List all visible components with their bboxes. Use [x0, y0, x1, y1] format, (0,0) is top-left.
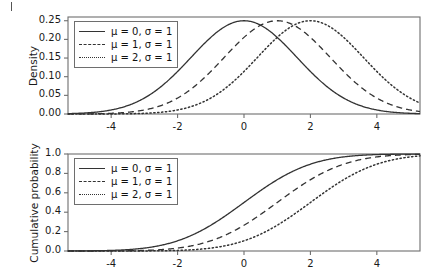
y-tick-label: 0.00	[39, 107, 61, 118]
legend-label: μ = 2, σ = 1	[111, 52, 172, 63]
legend-entry: μ = 0, σ = 1	[79, 162, 172, 175]
y-tick-label: 0.2	[45, 225, 61, 236]
legend-entry: μ = 2, σ = 1	[79, 188, 172, 201]
x-tick-label: 0	[224, 121, 264, 132]
y-tick-label: 0.4	[45, 205, 61, 216]
y-tick-label: 0.05	[39, 88, 61, 99]
x-tick-label: -4	[91, 258, 131, 269]
y-tick-label: 0.20	[39, 32, 61, 43]
x-tick-label: 2	[290, 121, 330, 132]
legend-key-dashed-icon	[79, 177, 105, 187]
legend-key-dashed-icon	[79, 40, 105, 50]
legend-key-dotted-icon	[79, 190, 105, 200]
legend-label: μ = 2, σ = 1	[111, 189, 172, 200]
legend-label: μ = 0, σ = 1	[111, 26, 172, 37]
x-tick-label: -2	[158, 121, 198, 132]
x-tick-label: -4	[91, 121, 131, 132]
cumulative-legend: μ = 0, σ = 1μ = 1, σ = 1μ = 2, σ = 1	[74, 158, 178, 205]
density-plot-area	[0, 0, 429, 137]
cumulative-y-axis-title: Cumulative probability	[27, 143, 39, 262]
legend-label: μ = 1, σ = 1	[111, 176, 172, 187]
cumulative-panel: Cumulative probability μ = 0, σ = 1μ = 1…	[0, 137, 429, 274]
density-panel: Density μ = 0, σ = 1μ = 1, σ = 1μ = 2, σ…	[0, 0, 429, 137]
legend-key-solid-icon	[79, 164, 105, 174]
y-tick-label: 0.15	[39, 51, 61, 62]
legend-key-solid-icon	[79, 27, 105, 37]
y-tick-label: 0.0	[45, 244, 61, 255]
density-legend: μ = 0, σ = 1μ = 1, σ = 1μ = 2, σ = 1	[74, 21, 178, 68]
density-y-axis-title: Density	[27, 46, 39, 86]
y-tick-label: 0.6	[45, 186, 61, 197]
x-tick-label: 0	[224, 258, 264, 269]
legend-label: μ = 0, σ = 1	[111, 163, 172, 174]
x-tick-label: 2	[290, 258, 330, 269]
legend-entry: μ = 0, σ = 1	[79, 25, 172, 38]
legend-label: μ = 1, σ = 1	[111, 39, 172, 50]
y-tick-label: 0.25	[39, 14, 61, 25]
x-tick-label: -2	[158, 258, 198, 269]
y-tick-label: 0.10	[39, 70, 61, 81]
legend-entry: μ = 2, σ = 1	[79, 51, 172, 64]
x-tick-label: 4	[357, 258, 397, 269]
legend-key-dotted-icon	[79, 53, 105, 63]
y-tick-label: 1.0	[45, 147, 61, 158]
legend-entry: μ = 1, σ = 1	[79, 175, 172, 188]
x-tick-label: 4	[357, 121, 397, 132]
figure: Density μ = 0, σ = 1μ = 1, σ = 1μ = 2, σ…	[0, 0, 429, 274]
cumulative-plot-area	[0, 137, 429, 274]
y-tick-label: 0.8	[45, 166, 61, 177]
legend-entry: μ = 1, σ = 1	[79, 38, 172, 51]
